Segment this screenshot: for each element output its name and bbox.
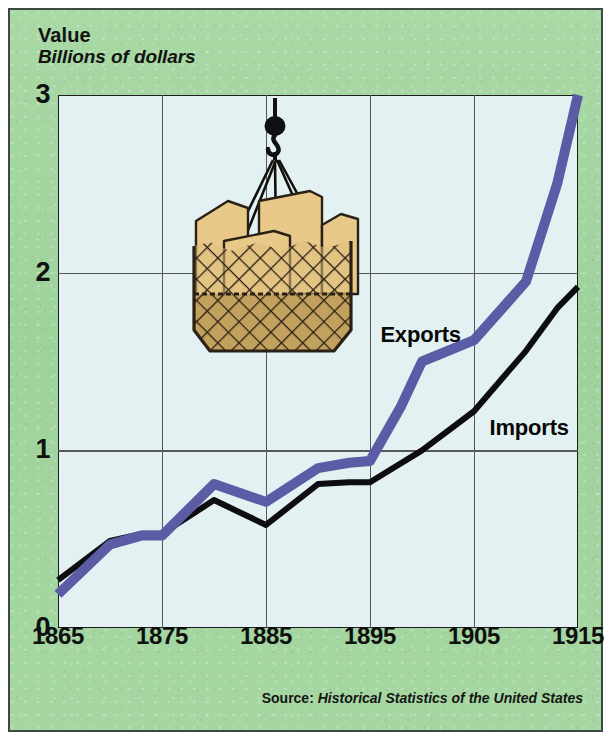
series-label-imports: Imports	[490, 415, 569, 441]
y-axis-tick-label: 2	[22, 257, 50, 288]
source-label: Source:	[262, 690, 314, 706]
x-axis-tick-label: 1875	[136, 622, 188, 650]
x-axis-tick-label: 1915	[552, 622, 604, 650]
axis-title-block: Value Billions of dollars	[38, 24, 196, 68]
screenshot-root: Value Billions of dollars 0123 186518751…	[0, 0, 611, 740]
source-title: Historical Statistics of the United Stat…	[318, 690, 583, 706]
series-label-exports: Exports	[380, 322, 461, 348]
x-axis-tick-label: 1885	[240, 622, 292, 650]
source-note: Source: Historical Statistics of the Uni…	[262, 690, 583, 706]
y-axis-tick-label: 1	[22, 434, 50, 465]
x-axis-tick-label: 1905	[448, 622, 500, 650]
figure-frame: Value Billions of dollars 0123 186518751…	[8, 8, 603, 732]
x-axis-tick-label: 1895	[344, 622, 396, 650]
y-axis-tick-label: 3	[22, 79, 50, 110]
axis-title: Value	[38, 24, 196, 46]
y-axis-tick-layer: 0123	[58, 95, 578, 628]
plot-wrapper: 0123 186518751885189519051915 ExportsImp…	[58, 95, 578, 628]
axis-subtitle: Billions of dollars	[38, 46, 196, 67]
x-axis-tick-label: 1865	[32, 622, 84, 650]
